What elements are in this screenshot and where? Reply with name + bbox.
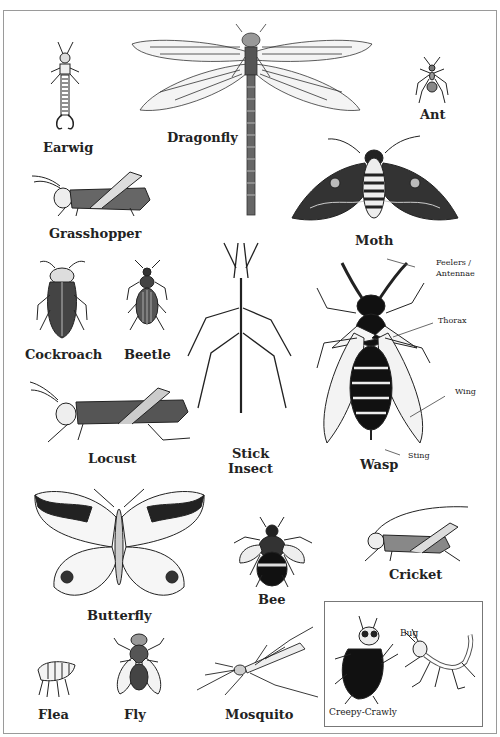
fly-illustration <box>110 632 168 700</box>
label-earwig: Earwig <box>43 140 93 155</box>
label-bug: Bug <box>400 628 418 639</box>
label-ant: Ant <box>420 107 446 122</box>
wasp-part-feelers-line1: Feelers / <box>436 258 471 267</box>
label-dragonfly: Dragonfly <box>167 130 238 145</box>
label-beetle: Beetle <box>124 347 171 362</box>
moth-illustration <box>290 133 460 233</box>
creepy-crawly-illustration <box>333 614 403 704</box>
label-moth: Moth <box>355 233 394 248</box>
locust-illustration <box>28 380 193 445</box>
wasp-part-thorax: Thorax <box>438 315 466 326</box>
stick-insect-illustration <box>186 238 296 418</box>
label-locust: Locust <box>88 451 137 466</box>
grasshopper-illustration <box>30 168 155 220</box>
cockroach-illustration <box>35 260 90 342</box>
label-mosquito: Mosquito <box>225 707 294 722</box>
label-fly: Fly <box>124 707 146 722</box>
wasp-part-wing: Wing <box>455 386 476 397</box>
beetle-illustration <box>125 258 170 338</box>
wasp-part-sting: Sting <box>408 450 430 461</box>
earwig-illustration <box>46 40 84 140</box>
bee-illustration <box>230 515 315 590</box>
flea-illustration <box>33 655 78 700</box>
wasp-part-feelers: Feelers / Antennae <box>436 257 475 279</box>
label-bee: Bee <box>258 592 286 607</box>
ant-illustration <box>414 55 450 107</box>
label-cricket: Cricket <box>389 567 442 582</box>
butterfly-illustration <box>32 487 207 607</box>
label-stick-insect: Stick Insect <box>228 446 273 476</box>
creepy-crawly-inset: Bug Creepy-Crawly <box>324 601 483 727</box>
label-creepy-crawly: Creepy-Crawly <box>329 707 397 718</box>
label-stick-insect-line2: Insect <box>228 461 273 476</box>
label-stick-insect-line1: Stick <box>232 446 269 461</box>
mosquito-illustration <box>195 625 320 700</box>
cricket-illustration <box>350 503 475 563</box>
label-cockroach: Cockroach <box>25 347 102 362</box>
label-flea: Flea <box>38 707 69 722</box>
label-butterfly: Butterfly <box>87 608 152 623</box>
label-grasshopper: Grasshopper <box>49 226 141 241</box>
wasp-part-feelers-line2: Antennae <box>436 269 475 278</box>
